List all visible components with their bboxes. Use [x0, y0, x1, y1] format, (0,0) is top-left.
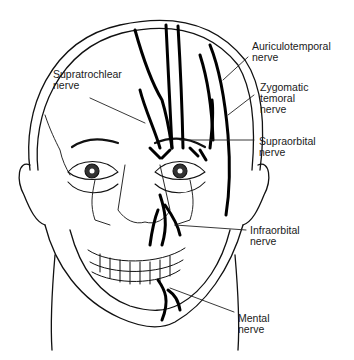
label-mental-nerve: Mental nerve: [238, 313, 270, 335]
label-supratrochlear-nerve: Supratrochlear nerve: [53, 69, 122, 91]
label-supraorbital-nerve: Supraorbital nerve: [259, 136, 316, 158]
label-line: nerve: [238, 324, 270, 335]
teeth: [88, 248, 185, 284]
label-line: nerve: [252, 52, 331, 63]
label-line: nerve: [250, 236, 300, 247]
left-eye: [68, 162, 118, 193]
label-line: nerve: [260, 104, 308, 115]
label-infraorbital-nerve: Infraorbital nerve: [250, 225, 300, 247]
label-line: nerve: [259, 147, 316, 158]
label-auriculotemporal-nerve: Auriculotemporal nerve: [252, 41, 331, 63]
label-zygomatic-temoral-nerve: Zygomatic temoral nerve: [260, 82, 308, 115]
label-line: nerve: [53, 80, 122, 91]
